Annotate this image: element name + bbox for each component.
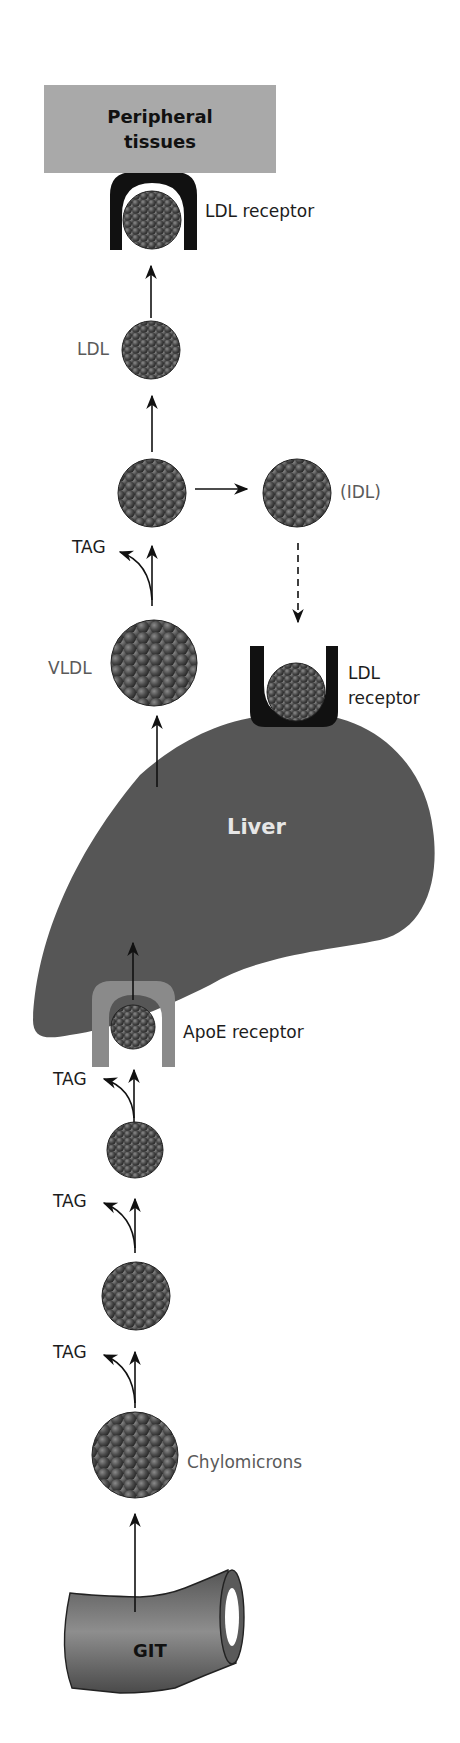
liver-shape [33, 713, 435, 1037]
tag-label-1: TAG [53, 1342, 87, 1362]
chylomicron-remnant-medium [102, 1262, 170, 1330]
idl-particle [263, 459, 331, 527]
chylomicron-particle [92, 1412, 178, 1498]
ldl-particle [122, 321, 180, 379]
apoe-receptor-label: ApoE receptor [183, 1022, 304, 1042]
vldl-label: VLDL [48, 658, 92, 678]
peripheral-tissues-label-1: Peripheral [107, 104, 213, 129]
ldl-particle-liver [267, 663, 325, 721]
ldl-particle-bound [123, 191, 181, 249]
chylomicron-remnant-bound [111, 1005, 155, 1049]
peripheral-tissues-box: Peripheral tissues [44, 85, 276, 173]
vldl-remnant-particle [118, 459, 186, 527]
vldl-particle [111, 620, 197, 706]
git-label: GIT [133, 1640, 167, 1661]
tag-label-vldl: TAG [72, 537, 106, 557]
pathway-diagram [0, 0, 460, 1743]
ldl-receptor-liver-label-2: receptor [348, 688, 420, 708]
tag-label-2: TAG [53, 1191, 87, 1211]
git-tube [64, 1570, 236, 1693]
liver-label: Liver [227, 815, 286, 839]
chylomicrons-label: Chylomicrons [187, 1452, 302, 1472]
ldl-receptor-peripheral-label: LDL receptor [205, 201, 314, 221]
idl-label: (IDL) [340, 482, 381, 502]
peripheral-tissues-label-2: tissues [124, 129, 196, 154]
ldl-label: LDL [77, 339, 109, 359]
ldl-receptor-liver-label-1: LDL [348, 663, 380, 683]
tag-label-3: TAG [53, 1069, 87, 1089]
git-lumen [225, 1588, 239, 1646]
chylomicron-remnant-small [107, 1122, 163, 1178]
